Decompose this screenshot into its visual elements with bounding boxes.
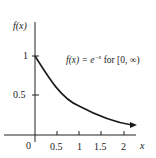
y-tick-label-1: 1: [23, 50, 28, 61]
y-tick-label-0.5: 0.5: [13, 89, 26, 100]
y-axis-label: f(x): [13, 20, 28, 32]
function-annotation: f(x) = e−x for [0, ∞): [66, 54, 140, 66]
chart: f(x) 1 0.5 0 0.5 1 1.5 2 x f(x) = e−x fo…: [0, 0, 156, 158]
x-tick-label-1: 1: [77, 141, 82, 152]
origin-label: 0: [26, 140, 31, 151]
curve-exp-decay: [35, 56, 132, 125]
arrowhead-icon: [130, 122, 137, 128]
x-tick-label-2: 2: [121, 141, 126, 152]
x-tick-label-0.5: 0.5: [50, 141, 63, 152]
x-axis-label: x: [139, 140, 145, 151]
x-tick-label-1.5: 1.5: [94, 141, 107, 152]
